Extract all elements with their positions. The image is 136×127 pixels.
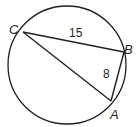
length-label-cb: 15 bbox=[69, 27, 82, 39]
circle bbox=[8, 6, 126, 124]
point-label-b: B bbox=[124, 43, 133, 56]
segment-ca bbox=[23, 32, 111, 101]
point-label-a: A bbox=[110, 108, 119, 121]
point-label-c: C bbox=[9, 23, 18, 36]
segment-ba bbox=[111, 52, 124, 101]
length-label-ba: 8 bbox=[103, 68, 110, 80]
